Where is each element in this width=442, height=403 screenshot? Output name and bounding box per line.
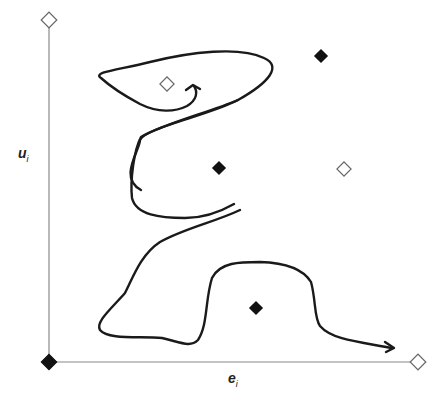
marker-bottom-filled-diamond-icon [249,301,263,315]
x-axis-label-subscript: i [236,379,238,389]
lower-path-curve [99,210,392,348]
y-axis-label-main: u [18,145,27,161]
marker-origin-filled-diamond-icon [41,354,57,370]
marker-loop-center-open-diamond-icon [160,77,174,91]
marker-upper-right-filled-diamond-icon [314,49,328,63]
x-axis-label-main: e [228,370,236,386]
arrowhead-upper [186,85,200,90]
middle-c-curve [131,100,238,218]
x-axis-label: ei [228,370,238,389]
marker-top-left-open-diamond-icon [41,12,57,28]
marker-middle-right-open-diamond-icon [337,162,351,176]
upper-loop-curve [99,51,272,190]
marker-middle-filled-diamond-icon [212,161,226,175]
y-axis-label: ui [18,145,29,164]
diagram-canvas [0,0,442,403]
y-axis-label-subscript: i [27,154,29,164]
marker-right-end-open-diamond-icon [410,354,426,370]
